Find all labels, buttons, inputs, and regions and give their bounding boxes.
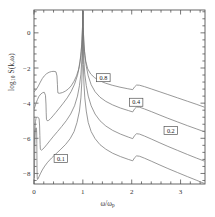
x-axis-label: ω/ωp [0, 200, 215, 208]
curve-0-2 [34, 11, 204, 161]
y-tick-label: 0 [27, 29, 31, 37]
curve-label-0-8: 0.8 [100, 74, 108, 81]
x-axis-label-denominator-subscript: p [112, 202, 115, 208]
x-tick-label: 0 [32, 188, 36, 196]
x-tick-label: 3 [179, 188, 183, 196]
y-axis-label-suffix: S(k,ω) [8, 53, 16, 75]
curve-labels: 0.80.40.20.1 [54, 74, 177, 163]
curve-label-0-4: 0.4 [132, 98, 140, 105]
x-tick-label: 1 [81, 188, 85, 196]
curve-label-0-1: 0.1 [57, 155, 65, 162]
y-tick-label: −2 [23, 65, 31, 73]
figure-container: 01230−2−4−6−8 0.80.40.20.1 log10 S(k,ω) … [0, 0, 215, 217]
x-tick-label: 2 [130, 188, 134, 196]
curve-label-0-2: 0.2 [167, 127, 175, 134]
y-tick-label: −8 [23, 170, 31, 178]
axis-tick-labels: 01230−2−4−6−8 [23, 29, 183, 195]
y-axis-label: log10 S(k,ω) [8, 36, 16, 108]
curve-0-8 [34, 11, 204, 107]
y-tick-label: −4 [23, 100, 31, 108]
y-axis-label-subscript: 10 [10, 75, 16, 81]
y-tick-label: −6 [23, 135, 31, 143]
y-axis-label-prefix: log [8, 81, 16, 91]
curve-0-4 [34, 11, 204, 132]
plot-canvas: 01230−2−4−6−8 0.80.40.20.1 [0, 0, 215, 217]
